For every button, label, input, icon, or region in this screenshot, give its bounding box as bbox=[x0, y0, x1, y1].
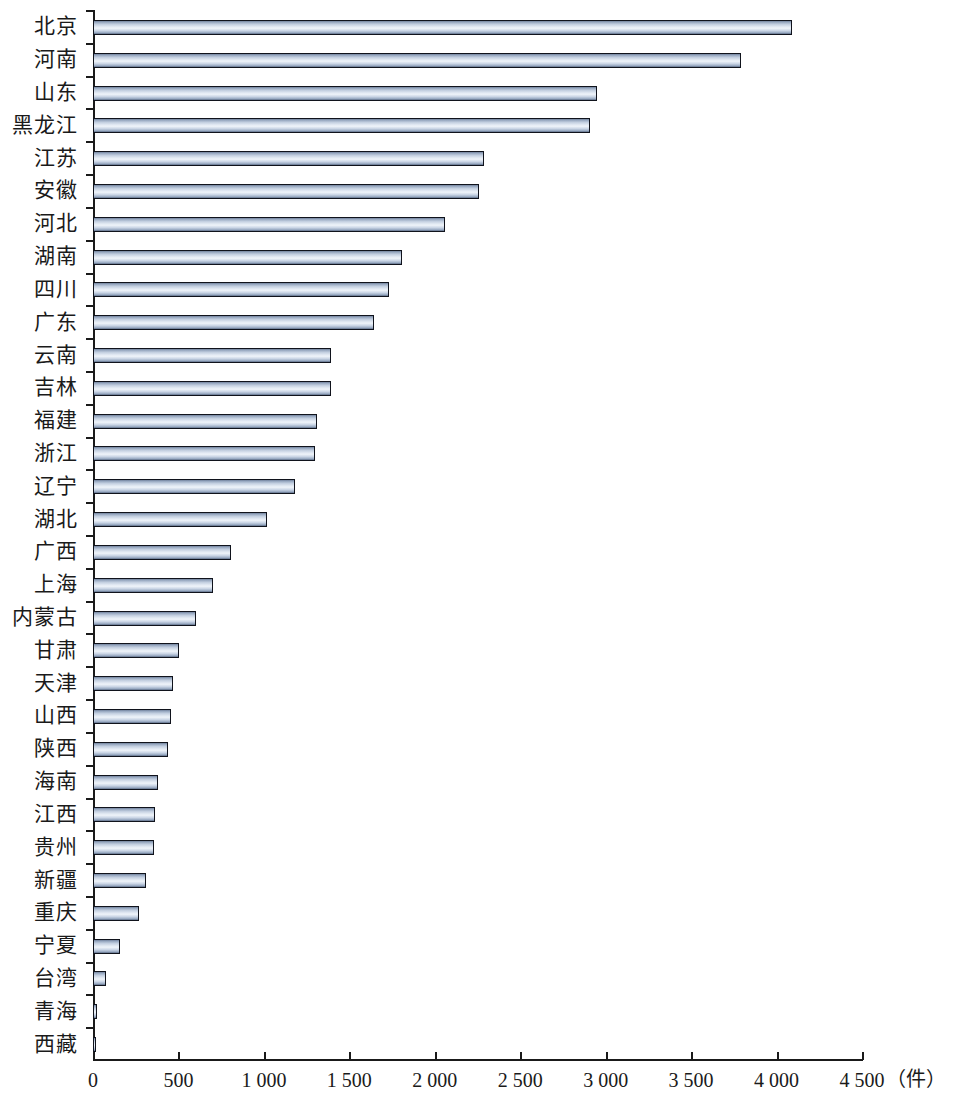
x-axis-tick bbox=[520, 1052, 522, 1060]
category-label: 云南 bbox=[34, 345, 78, 366]
category-label: 湖北 bbox=[34, 509, 78, 530]
y-axis-tick bbox=[86, 141, 93, 143]
bar-chart: 北京河南山东黑龙江江苏安徽河北湖南四川广东云南吉林福建浙江辽宁湖北广西上海内蒙古… bbox=[0, 0, 954, 1099]
y-axis-tick bbox=[86, 830, 93, 832]
x-axis-tick-label: 4 000 bbox=[754, 1070, 799, 1090]
x-axis-tick bbox=[606, 1052, 608, 1060]
y-axis-tick bbox=[86, 535, 93, 537]
category-label: 重庆 bbox=[34, 902, 78, 923]
bar bbox=[93, 676, 173, 691]
x-axis-unit-label: （件） bbox=[886, 1069, 946, 1089]
x-axis-tick-label: 3 000 bbox=[583, 1070, 628, 1090]
bar bbox=[93, 545, 231, 560]
y-axis-tick bbox=[86, 43, 93, 45]
bar bbox=[93, 709, 171, 724]
bar bbox=[93, 217, 445, 232]
y-axis-tick bbox=[86, 371, 93, 373]
bar bbox=[93, 479, 295, 494]
category-label: 贵州 bbox=[34, 837, 78, 858]
bar bbox=[93, 250, 402, 265]
x-axis-tick-label: 1 500 bbox=[327, 1070, 372, 1090]
y-axis-tick bbox=[86, 633, 93, 635]
category-label: 广东 bbox=[34, 312, 78, 333]
y-axis-tick bbox=[86, 896, 93, 898]
category-label: 青海 bbox=[34, 1001, 78, 1022]
bar bbox=[93, 86, 597, 101]
y-axis-tick bbox=[86, 108, 93, 110]
bar bbox=[93, 775, 158, 790]
category-label: 福建 bbox=[34, 410, 78, 431]
bar bbox=[93, 20, 792, 35]
category-label: 上海 bbox=[34, 574, 78, 595]
bar bbox=[93, 742, 168, 757]
category-label: 吉林 bbox=[34, 377, 78, 398]
category-label: 江西 bbox=[34, 804, 78, 825]
bar bbox=[93, 1037, 96, 1052]
category-label: 台湾 bbox=[34, 968, 78, 989]
y-axis-tick bbox=[86, 601, 93, 603]
x-axis-tick-label: 2 000 bbox=[412, 1070, 457, 1090]
category-label: 甘肃 bbox=[34, 640, 78, 661]
bar bbox=[93, 315, 374, 330]
bar bbox=[93, 939, 120, 954]
bar bbox=[93, 971, 106, 986]
category-label: 山东 bbox=[34, 82, 78, 103]
x-axis-tick bbox=[862, 1052, 864, 1060]
bar bbox=[93, 414, 317, 429]
bar bbox=[93, 611, 196, 626]
y-axis-tick bbox=[86, 699, 93, 701]
category-label: 广西 bbox=[34, 541, 78, 562]
category-label: 黑龙江 bbox=[12, 115, 78, 136]
bar bbox=[93, 282, 389, 297]
x-axis-tick-label: 1 000 bbox=[241, 1070, 286, 1090]
y-axis-tick bbox=[86, 502, 93, 504]
category-label: 西藏 bbox=[34, 1034, 78, 1055]
bar bbox=[93, 906, 139, 921]
y-axis-tick bbox=[86, 469, 93, 471]
y-axis-tick bbox=[86, 338, 93, 340]
y-axis-tick bbox=[86, 305, 93, 307]
category-label: 海南 bbox=[34, 771, 78, 792]
y-axis-tick bbox=[86, 76, 93, 78]
bar bbox=[93, 840, 154, 855]
x-axis-tick-label: 0 bbox=[88, 1070, 98, 1090]
category-label: 山西 bbox=[34, 705, 78, 726]
bar bbox=[93, 512, 267, 527]
y-axis-tick bbox=[86, 765, 93, 767]
bar bbox=[93, 643, 179, 658]
category-label: 江苏 bbox=[34, 148, 78, 169]
bar bbox=[93, 151, 484, 166]
x-axis-tick-label: 3 500 bbox=[669, 1070, 714, 1090]
category-label: 四川 bbox=[34, 279, 78, 300]
bar bbox=[93, 53, 741, 68]
y-axis-tick bbox=[86, 666, 93, 668]
bar bbox=[93, 807, 155, 822]
y-axis-tick bbox=[86, 1027, 93, 1029]
category-label: 内蒙古 bbox=[12, 607, 78, 628]
x-axis-tick-label: 500 bbox=[163, 1070, 193, 1090]
category-label: 安徽 bbox=[34, 180, 78, 201]
y-axis-tick bbox=[86, 994, 93, 996]
x-axis-tick bbox=[264, 1052, 266, 1060]
bar bbox=[93, 1004, 97, 1019]
y-axis-tick bbox=[86, 174, 93, 176]
category-label: 浙江 bbox=[34, 443, 78, 464]
bar bbox=[93, 381, 331, 396]
category-label: 宁夏 bbox=[34, 935, 78, 956]
y-axis-tick bbox=[86, 798, 93, 800]
y-axis-tick bbox=[86, 929, 93, 931]
y-axis-tick bbox=[86, 962, 93, 964]
x-axis-tick-label: 2 500 bbox=[498, 1070, 543, 1090]
category-label: 辽宁 bbox=[34, 476, 78, 497]
category-label: 新疆 bbox=[34, 870, 78, 891]
bar bbox=[93, 348, 331, 363]
plot-area bbox=[93, 10, 862, 1060]
category-label: 北京 bbox=[34, 16, 78, 37]
category-label: 河北 bbox=[34, 213, 78, 234]
y-axis-tick bbox=[86, 10, 93, 12]
bar bbox=[93, 873, 146, 888]
bar bbox=[93, 446, 315, 461]
x-axis-tick bbox=[435, 1052, 437, 1060]
bar bbox=[93, 118, 590, 133]
category-label: 陕西 bbox=[34, 738, 78, 759]
